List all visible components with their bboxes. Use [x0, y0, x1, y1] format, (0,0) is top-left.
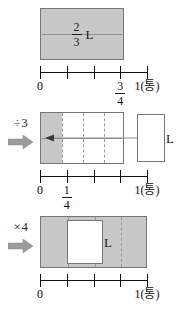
fraction-three-fourths: 3 4: [115, 80, 125, 107]
number-line-label-three-fourths: 3 4: [114, 80, 126, 107]
number-line-label-one-tong: 1(통): [135, 184, 160, 196]
unit-liter: L: [86, 28, 94, 41]
bar-divider: [121, 217, 122, 267]
panel-fraction-start: 2 3 L 0 3 4 1(통): [0, 0, 183, 104]
number-line-tick: [67, 170, 68, 183]
box-label-liter: L: [104, 220, 118, 264]
fraction-denominator: 3: [72, 35, 82, 48]
operator-column-divide: ÷3: [4, 116, 38, 149]
number-line-tick: [120, 274, 121, 287]
fraction-two-thirds: 2 3: [72, 21, 82, 48]
operator-label-divide-3: ÷3: [4, 116, 38, 129]
operator-arrow-divide: [4, 135, 38, 149]
number-line-label-one-fourth: 1 4: [61, 184, 73, 211]
number-line-bottom: 0 1(통): [40, 274, 147, 312]
fraction-numerator: 1: [62, 184, 72, 198]
unit-liter: L: [166, 132, 174, 145]
number-line-tick: [94, 66, 95, 79]
fraction-numerator: 2: [72, 21, 82, 35]
number-line-middle: 0 1 4 1(통): [40, 170, 147, 208]
box-one-liter-unit: [137, 114, 165, 162]
number-line-tick: [147, 170, 148, 183]
fraction-one-fourth: 1 4: [62, 184, 72, 211]
box-one-liter-overlay: [67, 220, 103, 264]
connector-arrow-to-left: [45, 132, 141, 144]
number-line-tick: [67, 274, 68, 287]
number-line-label-one-tong: 1(통): [135, 80, 160, 92]
operator-column-multiply: ×4: [4, 220, 38, 253]
number-line-tick: [120, 170, 121, 183]
bar-label-two-thirds-liter: 2 3 L: [40, 8, 124, 60]
number-line-tick: [40, 274, 41, 287]
box-label-liter: L: [166, 114, 180, 162]
right-arrow-icon: [8, 135, 34, 149]
operator-label-multiply-4: ×4: [4, 220, 38, 233]
number-line-tick: [120, 66, 121, 79]
fraction-numerator: 3: [115, 80, 125, 94]
number-line-tick: [40, 66, 41, 79]
number-line-tick: [67, 66, 68, 79]
number-line-tick: [94, 274, 95, 287]
number-line-tick: [147, 274, 148, 287]
unit-liter: L: [104, 236, 112, 249]
number-line-label-one-tong: 1(통): [135, 288, 160, 300]
number-line-tick: [40, 170, 41, 183]
number-line-top: 0 3 4 1(통): [40, 66, 147, 104]
number-line-tick: [94, 170, 95, 183]
panel-divide-by-three: ÷3 L 0 1 4 1: [0, 104, 183, 208]
right-arrow-icon: [8, 239, 34, 253]
number-line-label-zero: 0: [37, 80, 43, 92]
panel-multiply-by-four: ×4 L 0 1(통): [0, 208, 183, 312]
number-line-label-zero: 0: [37, 184, 43, 196]
operator-arrow-multiply: [4, 239, 38, 253]
number-line-tick: [147, 66, 148, 79]
number-line-label-zero: 0: [37, 288, 43, 300]
